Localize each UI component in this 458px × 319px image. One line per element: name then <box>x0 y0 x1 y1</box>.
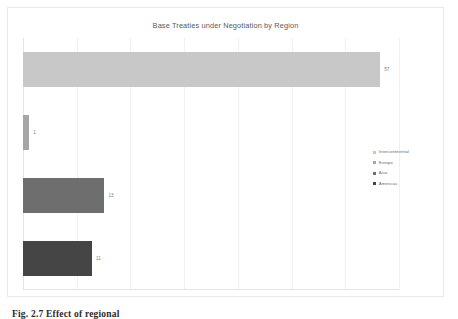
figure-caption: Fig. 2.7 Effect of regional <box>12 303 312 319</box>
bar-value-label: 13 <box>108 193 113 198</box>
bar-intercontinental[interactable] <box>23 52 380 87</box>
bar-row: 13 <box>23 178 399 213</box>
legend-item-europe[interactable]: Europe <box>373 158 435 169</box>
legend-swatch-icon <box>373 172 376 175</box>
bar-value-label: 1 <box>33 130 36 135</box>
bar-asia[interactable] <box>23 178 104 213</box>
legend-item-label: Europe <box>379 161 393 165</box>
plot-area: 5711311 <box>23 38 399 290</box>
legend-item-label: Americas <box>379 182 397 186</box>
legend-item-label: Intercontinental <box>379 150 409 154</box>
legend-swatch-icon <box>373 182 376 185</box>
legend-item-intercontinental[interactable]: Intercontinental <box>373 147 435 158</box>
figure-caption-text: Fig. 2.7 Effect of regional <box>12 309 120 319</box>
chart-frame: Base Treaties under Negotiation by Regio… <box>7 7 444 297</box>
chart-title: Base Treaties under Negotiation by Regio… <box>8 21 443 30</box>
chart-legend: IntercontinentalEuropeAsiaAmericas <box>373 147 435 189</box>
bar-row: 11 <box>23 241 399 276</box>
legend-item-asia[interactable]: Asia <box>373 168 435 179</box>
legend-item-americas[interactable]: Americas <box>373 179 435 190</box>
bar-americas[interactable] <box>23 241 92 276</box>
bar-value-label: 57 <box>384 67 389 72</box>
bar-row: 1 <box>23 115 399 150</box>
legend-item-label: Asia <box>379 171 388 175</box>
bar-value-label: 11 <box>96 256 101 261</box>
bar-series: 5711311 <box>23 38 399 290</box>
bar-europe[interactable] <box>23 115 29 150</box>
bar-row: 57 <box>23 52 399 87</box>
legend-swatch-icon <box>373 151 376 154</box>
figure-container: Base Treaties under Negotiation by Regio… <box>0 0 458 319</box>
legend-swatch-icon <box>373 161 376 164</box>
